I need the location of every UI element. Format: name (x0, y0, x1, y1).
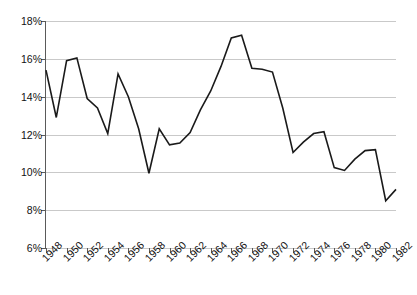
data-series-svg (0, 0, 417, 295)
line-chart: 18%16%14%12%10%8%6% 19481950195219541956… (0, 0, 417, 295)
series-line-1 (46, 35, 396, 201)
